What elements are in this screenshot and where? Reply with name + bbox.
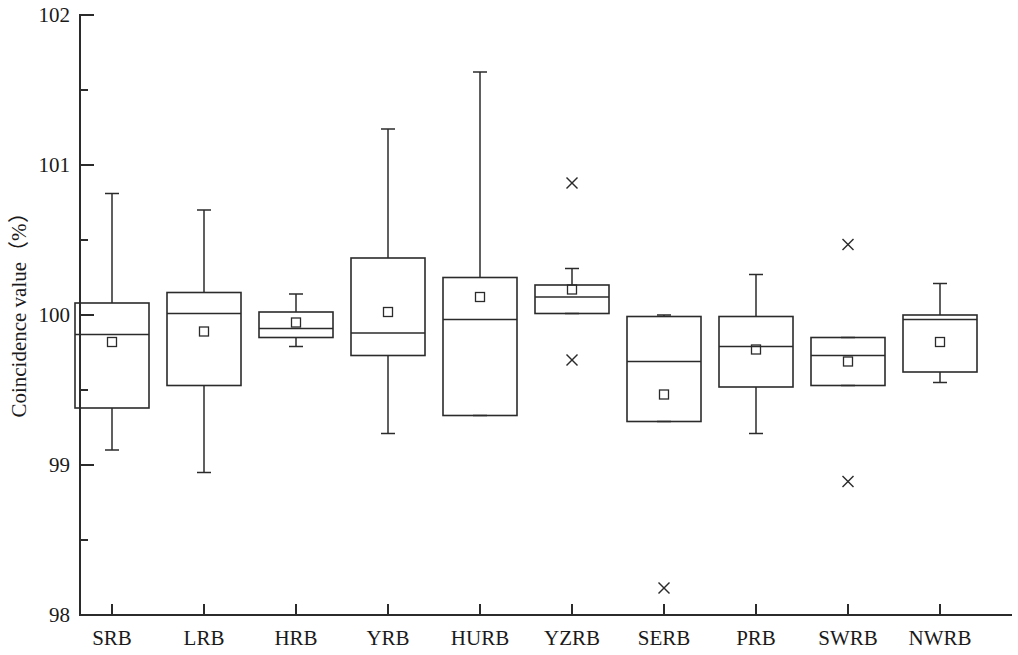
box-iqr [903, 315, 977, 372]
y-tick-label: 101 [39, 153, 71, 177]
box-iqr [811, 338, 885, 386]
mean-marker [476, 293, 485, 302]
boxplot-lrb [167, 210, 241, 473]
boxplot-swrb [811, 239, 885, 487]
mean-marker [200, 327, 209, 336]
boxplot-serb [627, 315, 701, 594]
mean-marker [108, 338, 117, 347]
box-series [75, 72, 977, 594]
box-iqr [167, 293, 241, 386]
mean-marker [660, 390, 669, 399]
axis-spine [80, 15, 1012, 615]
mean-marker [568, 285, 577, 294]
boxplot-figure: 1021011009998 SRBLRBHRBYRBHURBYZRBSERBPR… [0, 0, 1018, 655]
box-iqr [627, 317, 701, 422]
box-iqr [535, 285, 609, 314]
boxplot-hrb [259, 294, 333, 347]
x-tick-label-yzrb: YZRB [544, 626, 600, 650]
y-tick-labels: 1021011009998 [39, 3, 71, 627]
y-tick-label: 102 [39, 3, 71, 27]
x-tick-label-prb: PRB [736, 626, 776, 650]
mean-marker [384, 308, 393, 317]
y-tick-label: 98 [49, 603, 70, 627]
x-tick-label-serb: SERB [638, 626, 691, 650]
boxplot-prb [719, 275, 793, 434]
box-iqr [75, 303, 149, 408]
x-tick-label-hrb: HRB [274, 626, 317, 650]
boxplot-yzrb [535, 178, 609, 366]
boxplot-yrb [351, 129, 425, 434]
boxplot-srb [75, 194, 149, 451]
boxplot-hurb [443, 72, 517, 416]
x-tick-label-lrb: LRB [184, 626, 225, 650]
x-tick-label-hurb: HURB [451, 626, 509, 650]
x-tick-label-nwrb: NWRB [909, 626, 972, 650]
y-tick-label: 100 [39, 303, 71, 327]
box-iqr [259, 312, 333, 338]
box-iqr [443, 278, 517, 416]
mean-marker [292, 318, 301, 327]
box-iqr [351, 258, 425, 356]
x-tick-label-srb: SRB [92, 626, 132, 650]
x-tick-label-swrb: SWRB [818, 626, 878, 650]
axes-group [80, 15, 1012, 615]
mean-marker [936, 338, 945, 347]
box-iqr [719, 317, 793, 388]
mean-marker [844, 357, 853, 366]
y-tick-label: 99 [49, 453, 70, 477]
boxplot-svg: 1021011009998 SRBLRBHRBYRBHURBYZRBSERBPR… [0, 0, 1018, 655]
y-axis-label: Coincidence value（%） [7, 202, 31, 417]
x-tick-label-yrb: YRB [366, 626, 409, 650]
boxplot-nwrb [903, 284, 977, 383]
x-tick-labels: SRBLRBHRBYRBHURBYZRBSERBPRBSWRBNWRB [92, 626, 971, 650]
